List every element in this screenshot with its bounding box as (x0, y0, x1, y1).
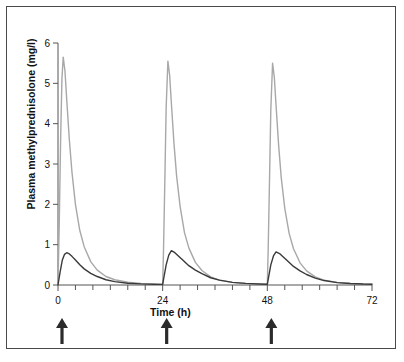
chart-plot: 01234560244872 (0, 0, 404, 362)
y-tick-label: 3 (44, 159, 50, 170)
dose-arrow-head (265, 318, 277, 328)
x-tick-label: 0 (55, 295, 61, 306)
y-tick-label: 2 (44, 199, 50, 210)
y-tick-label: 1 (44, 239, 50, 250)
y-tick-label: 6 (44, 38, 50, 49)
y-tick-label: 5 (44, 78, 50, 89)
x-tick-label: 24 (157, 295, 169, 306)
dose-arrow (265, 318, 277, 344)
y-tick-label: 4 (44, 118, 50, 129)
dose-arrow-head (161, 318, 173, 328)
dose-arrow (56, 318, 68, 344)
dose-arrow-head (56, 318, 68, 328)
x-tick-label: 48 (262, 295, 274, 306)
figure-container: Plasma methylprednisolone (mg/l) Time (h… (0, 0, 404, 362)
x-tick-label: 72 (366, 295, 378, 306)
series-high-peak-profile (58, 57, 372, 285)
dose-arrow (161, 318, 173, 344)
y-tick-label: 0 (44, 280, 50, 291)
